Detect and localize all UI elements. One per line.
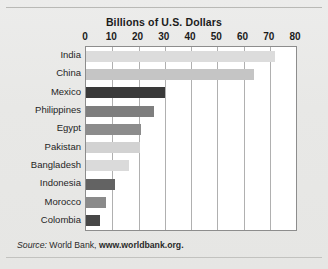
category-label: Colombia <box>0 214 81 225</box>
category-label: Philippines <box>0 104 81 115</box>
bar <box>86 87 165 98</box>
chart-figure: Billions of U.S. Dollars 010203040506070… <box>0 0 328 269</box>
bar <box>86 51 275 62</box>
source-label: Source: <box>17 240 47 250</box>
figure-top-rule <box>6 7 322 8</box>
category-label: China <box>0 67 81 78</box>
chart-title: Billions of U.S. Dollars <box>0 16 328 28</box>
plot-area <box>85 46 297 231</box>
x-tick-label: 80 <box>280 31 310 42</box>
category-label: Morocco <box>0 196 81 207</box>
category-label: Bangladesh <box>0 159 81 170</box>
source-url[interactable]: www.worldbank.org. <box>99 240 184 250</box>
bar <box>86 142 140 153</box>
source-note: Source: World Bank, www.worldbank.org. <box>17 240 184 250</box>
bar <box>86 179 115 190</box>
y-axis-category-labels: IndiaChinaMexicoPhilippinesEgyptPakistan… <box>0 46 81 229</box>
bar <box>86 160 129 171</box>
category-label: Mexico <box>0 86 81 97</box>
category-label: Pakistan <box>0 141 81 152</box>
x-axis-tick-labels: 01020304050607080 <box>85 31 295 44</box>
bar <box>86 69 254 80</box>
bar <box>86 197 106 208</box>
category-label: Egypt <box>0 122 81 133</box>
bar <box>86 124 141 135</box>
bar <box>86 215 100 226</box>
figure-bottom-rule <box>6 257 322 258</box>
bar-series <box>86 47 296 230</box>
category-label: Indonesia <box>0 177 81 188</box>
bar <box>86 106 154 117</box>
source-publisher: World Bank, <box>47 240 99 250</box>
category-label: India <box>0 49 81 60</box>
